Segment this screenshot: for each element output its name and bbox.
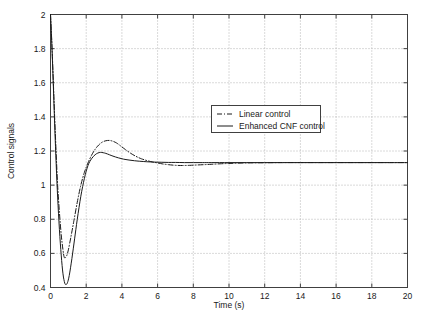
legend-label-linear-control: Linear control (239, 109, 291, 119)
x-tick-labels: 02468101214161820 (48, 291, 412, 301)
chart-legend: Linear control Enhanced CNF control (212, 106, 326, 133)
y-tick-label: 1 (41, 180, 46, 190)
y-tick-label: 1.4 (34, 112, 46, 122)
control-signals-line-chart: 02468101214161820 0.40.60.811.21.41.61.8… (0, 0, 426, 321)
x-tick-label: 18 (367, 291, 377, 301)
x-tick-label: 14 (296, 291, 306, 301)
x-axis-title: Time (s) (214, 300, 245, 310)
x-tick-label: 4 (120, 291, 125, 301)
x-tick-label: 16 (331, 291, 341, 301)
y-tick-label: 1.2 (34, 146, 46, 156)
x-tick-label: 10 (224, 291, 234, 301)
x-tick-label: 6 (155, 291, 160, 301)
x-tick-label: 20 (403, 291, 413, 301)
x-tick-label: 2 (84, 291, 89, 301)
y-tick-label: 0.6 (34, 248, 46, 258)
y-axis-title: Control signals (6, 123, 16, 179)
y-tick-label: 0.4 (34, 283, 46, 293)
grid-lines (51, 15, 408, 288)
x-tick-label: 0 (48, 291, 53, 301)
y-tick-label: 2 (41, 10, 46, 20)
y-tick-label: 1.8 (34, 44, 46, 54)
y-tick-labels: 0.40.60.811.21.41.61.82 (34, 10, 46, 293)
y-tick-label: 0.8 (34, 214, 46, 224)
x-tick-label: 8 (191, 291, 196, 301)
y-tick-label: 1.6 (34, 78, 46, 88)
chart-screenshot: 02468101214161820 0.40.60.811.21.41.61.8… (0, 0, 426, 321)
legend-label-enhanced-cnf-control: Enhanced CNF control (239, 121, 325, 131)
x-tick-label: 12 (260, 291, 270, 301)
